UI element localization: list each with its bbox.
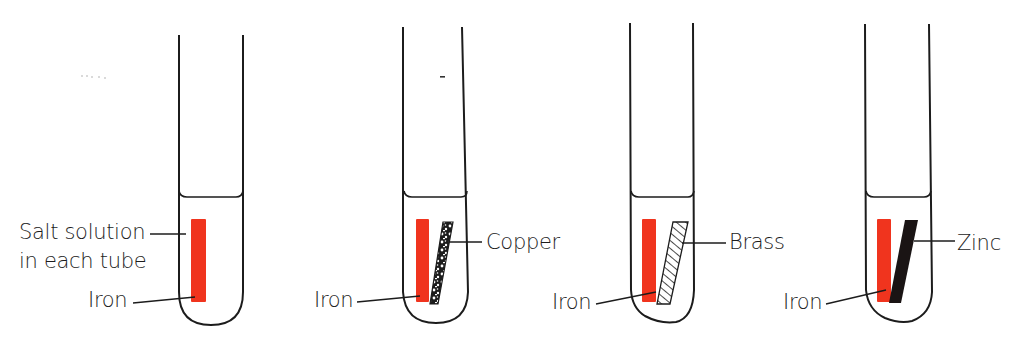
- test-tube-4: [826, 24, 955, 322]
- salt-solution-label-line2: in each tube: [19, 251, 146, 272]
- zinc-strip: [889, 220, 918, 303]
- brass-label: Brass: [729, 232, 785, 253]
- test-tube-diagram: [0, 0, 1024, 339]
- iron-strip: [416, 219, 429, 302]
- diagram-canvas: Salt solution in each tube Iron Iron Cop…: [0, 0, 1024, 339]
- copper-label: Copper: [486, 232, 560, 253]
- zinc-label: Zinc: [957, 233, 1001, 254]
- iron-leader-line: [357, 296, 420, 302]
- iron-strip: [642, 219, 656, 302]
- solution-meniscus: [866, 191, 931, 197]
- tube-4-iron-label: Iron: [783, 292, 822, 313]
- copper-strip: [430, 222, 453, 304]
- solution-meniscus: [631, 191, 694, 197]
- tube-3-iron-label: Iron: [552, 292, 591, 313]
- test-tube-3: [596, 23, 726, 322]
- solution-meniscus: [404, 191, 467, 197]
- tube-2-iron-label: Iron: [314, 290, 353, 311]
- tube-1-iron-label: Iron: [88, 290, 127, 311]
- tube-outline: [179, 35, 243, 325]
- solution-meniscus: [179, 191, 243, 197]
- brass-strip: [657, 222, 688, 304]
- iron-strip: [877, 219, 891, 302]
- stray-marks: [81, 75, 445, 78]
- test-tube-2: [357, 27, 482, 323]
- iron-leader-line: [133, 297, 195, 303]
- test-tube-1: [133, 35, 243, 325]
- salt-solution-label-line1: Salt solution: [19, 222, 145, 243]
- iron-strip: [191, 219, 206, 302]
